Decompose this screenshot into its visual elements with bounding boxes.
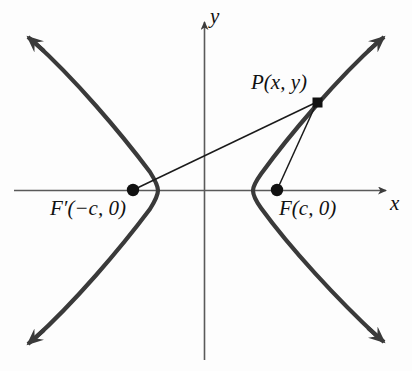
point-p-label: P(x, y) [251, 72, 307, 93]
focus-left-point [127, 184, 139, 196]
segment-p-to-focus-left [133, 102, 317, 190]
hyperbola-right-lower-arrow [368, 328, 384, 342]
focus-right-label: F(c, 0) [279, 198, 336, 219]
y-axis-label: y [210, 6, 219, 27]
hyperbola-diagram [0, 0, 412, 371]
focus-left-label: F′(−c, 0) [50, 198, 126, 219]
hyperbola-right-upper-arrow [368, 37, 384, 51]
hyperbola-figure: y x P(x, y) F′(−c, 0) F(c, 0) [0, 0, 412, 371]
hyperbola-left-upper-arrow [28, 37, 44, 51]
point-p-marker [313, 98, 323, 108]
focus-right-point [271, 184, 283, 196]
hyperbola-left-lower-arrow [28, 330, 44, 344]
x-axis-label: x [390, 193, 399, 214]
